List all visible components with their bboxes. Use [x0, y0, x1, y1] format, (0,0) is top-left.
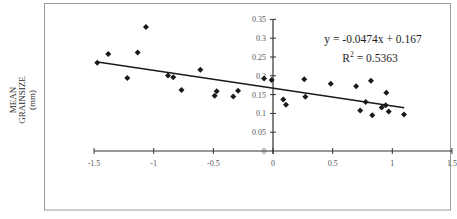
x-tick-label: 1.5 [447, 159, 457, 168]
x-tick-label: 1 [390, 159, 394, 168]
y-axis-title-line-1: MEAN [8, 86, 18, 113]
regression-equation: y = -0.0474x + 0.167 [324, 33, 422, 46]
y-axis-title-line-3: (mm) [27, 90, 37, 110]
y-axis-title: MEAN GRAINSIZE (mm) [8, 76, 38, 124]
x-tick-label: -1 [150, 159, 157, 168]
y-tick-label: 0.05 [252, 128, 266, 137]
y-axis-title-line-2: GRAINSIZE [17, 76, 27, 124]
x-tick-label: -0.5 [207, 159, 220, 168]
y-tick-label: 0 [262, 147, 266, 156]
y-tick-label: 0.15 [252, 91, 266, 100]
y-tick-label: 0.1 [256, 109, 266, 118]
r-squared-value: = 0.5363 [354, 52, 398, 64]
x-tick-label: 0.5 [328, 159, 338, 168]
x-tick-label: -1.5 [88, 159, 101, 168]
y-tick-label: 0.25 [252, 53, 266, 62]
x-tick-label: 0 [271, 159, 275, 168]
y-tick-label: 0.35 [252, 15, 266, 24]
scatter-chart: MEAN GRAINSIZE (mm) -1.5-1-0.500.511.500… [0, 0, 457, 219]
y-tick-label: 0.3 [256, 34, 266, 43]
chart-container: MEAN GRAINSIZE (mm) -1.5-1-0.500.511.500… [0, 0, 457, 219]
